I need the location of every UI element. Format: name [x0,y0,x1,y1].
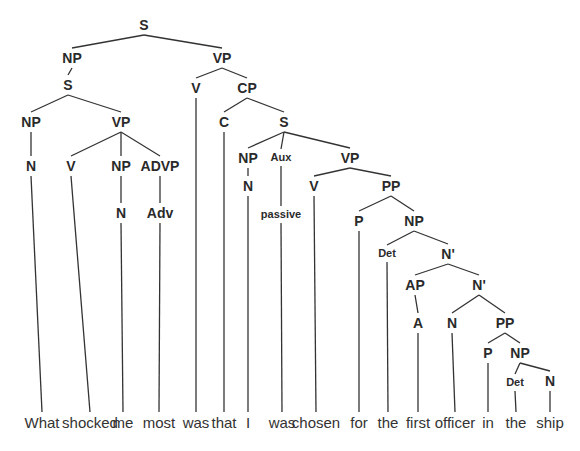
word-15: ship [536,414,564,431]
node-s0: S [139,17,148,33]
word-5: that [211,414,237,431]
node-det2: Det [506,376,524,388]
word-0: What [24,414,60,431]
sentence-words: WhatshockedmemostwasthatIwaschosenforthe… [24,414,563,431]
tree-edge-np0-s1 [68,68,72,75]
node-p1: P [354,213,363,229]
tree-edge-ap-a [415,295,418,313]
node-n3: N [243,178,253,194]
terminal-edge-8 [314,196,316,412]
tree-edge-vp1-v1 [71,132,121,156]
terminal-edge-12 [452,333,455,412]
tree-edge-nb1-nb2 [448,264,479,275]
node-n2: N [116,205,126,221]
word-9: for [350,414,368,431]
node-pass: passive [261,208,301,220]
tree-edges [31,35,550,412]
node-v2: V [309,178,319,194]
node-np5: NP [510,345,529,361]
tree-nodes: SNPVPSNPVPNVNPADVPNAdvVCPCSNPAuxVPNpassi… [21,17,555,389]
node-det1: Det [378,247,396,259]
node-cp: CP [237,80,256,96]
syntax-tree-diagram: SNPVPSNPVPNVNPADVPNAdvVCPCSNPAuxVPNpassi… [0,0,580,451]
word-2: me [113,414,134,431]
tree-edge-s2-np3 [248,132,284,148]
terminal-edge-1 [71,176,90,412]
tree-edge-s2-vp2 [284,132,350,148]
node-vp1: VP [112,114,131,130]
node-ap: AP [405,277,424,293]
node-pp1: PP [382,178,401,194]
node-v1: V [66,158,76,174]
word-10: the [378,414,399,431]
tree-edge-pp2-np5 [505,333,520,343]
node-nb2: N' [472,277,485,293]
tree-edge-pp1-np4 [391,196,414,211]
node-a: A [413,315,423,331]
word-13: in [482,414,494,431]
tree-edge-vp0-cp [222,68,247,78]
terminal-edge-3 [159,223,160,412]
node-pp2: PP [496,315,515,331]
tree-edge-nb2-n4 [452,295,479,313]
node-s1: S [63,77,72,93]
node-p2: P [483,345,492,361]
node-np4: NP [404,213,423,229]
tree-edge-s0-np0 [72,35,144,48]
tree-edge-vp1-advp [121,132,160,156]
tree-edge-np5-n5 [520,363,550,371]
tree-edge-s1-vp1 [68,95,121,112]
node-vp2: VP [341,150,360,166]
word-6: I [246,414,250,431]
terminal-edge-14 [515,391,516,412]
tree-edge-np4-det1 [387,231,414,245]
tree-edge-vp2-pp1 [350,168,391,176]
tree-edge-pp1-p1 [359,196,391,211]
node-n4: N [447,315,457,331]
word-8: chosen [292,414,340,431]
node-n1: N [26,158,36,174]
word-12: officer [435,414,476,431]
terminal-edge-7 [281,223,282,412]
tree-edge-nb2-pp2 [479,295,505,313]
node-np1: NP [21,114,40,130]
tree-edge-cp-c [224,98,247,112]
node-advp: ADVP [141,158,180,174]
tree-edge-nb1-ap [415,264,448,275]
terminal-edge-10 [387,262,388,412]
word-3: most [143,414,176,431]
node-nb1: N' [441,246,454,262]
tree-edge-np5-det2 [515,363,520,374]
terminal-edge-0 [31,176,42,412]
node-c: C [219,114,229,130]
node-v0: V [191,80,201,96]
word-4: was [182,414,210,431]
word-11: first [406,414,431,431]
node-n5: N [545,373,555,389]
node-np3: NP [238,150,257,166]
tree-edge-s0-vp0 [144,35,222,48]
word-1: shocked [62,414,118,431]
tree-edge-pp2-p2 [488,333,505,343]
tree-edge-vp0-v0 [196,68,222,78]
node-np2: NP [111,158,130,174]
tree-edge-s2-aux [281,132,284,149]
tree-edge-np4-nb1 [414,231,448,244]
tree-edge-s1-np1 [31,95,68,112]
node-aux: Aux [271,151,293,163]
node-s2: S [279,114,288,130]
node-np0: NP [62,50,81,66]
word-14: the [506,414,527,431]
tree-edge-cp-s2 [247,98,284,112]
node-adv: Adv [147,205,174,221]
terminal-edge-2 [121,223,123,412]
node-vp0: VP [213,50,232,66]
tree-edge-vp2-v2 [314,168,350,176]
